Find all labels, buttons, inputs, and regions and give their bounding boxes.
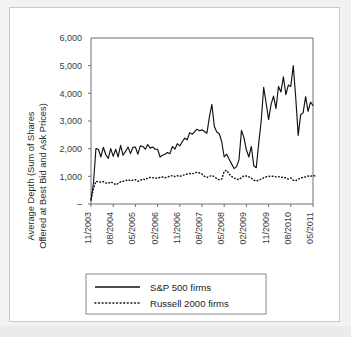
x-tick-label: 11/2003	[83, 212, 93, 244]
y-axis-title: Average Depth (Sum of Shares Offered at …	[26, 103, 48, 249]
y-tick-label: 1,000	[59, 172, 82, 182]
legend-label-russell2000: Russell 2000 firms	[150, 298, 229, 309]
x-tick-label: 08/2007	[194, 212, 204, 245]
x-tick-label: 02/2006	[150, 212, 160, 245]
series-line-sp500	[91, 66, 313, 201]
x-tick-label: 08/2010	[283, 212, 293, 245]
x-tick-label: 08/2004	[105, 212, 115, 245]
x-tick-labels: 11/200308/200405/200502/200611/200608/20…	[83, 212, 315, 245]
figure-frame: Average Depth (Sum of Shares Offered at …	[9, 7, 340, 322]
x-tick-label: 05/2008	[216, 212, 226, 245]
y-tick-label: 3,000	[59, 116, 82, 126]
x-tick-label: 05/2005	[127, 212, 137, 245]
x-tick-label: 05/2011	[305, 212, 315, 244]
y-tick-label: –	[77, 199, 82, 209]
line-chart: Average Depth (Sum of Shares Offered at …	[10, 8, 341, 323]
y-axis-title-line2: Offered at Best Bid and Ask Prices)	[38, 103, 48, 249]
page-bottom-band	[0, 326, 351, 337]
y-tick-labels: 6,0005,0004,0003,0002,0001,000–	[59, 33, 82, 209]
y-tick-label: 6,000	[59, 33, 82, 43]
legend-label-sp500: S&P 500 firms	[150, 282, 211, 293]
x-tick-label: 11/2009	[261, 212, 271, 244]
figure-root: Average Depth (Sum of Shares Offered at …	[0, 0, 351, 337]
chart-area: Average Depth (Sum of Shares Offered at …	[10, 8, 341, 323]
x-tick-label: 02/2009	[238, 212, 248, 245]
x-tick-label: 11/2006	[172, 212, 182, 244]
y-tick-label: 5,000	[59, 61, 82, 71]
y-tick-label: 4,000	[59, 89, 82, 99]
y-tick-label: 2,000	[59, 144, 82, 154]
series-line-russell2000	[91, 170, 315, 199]
legend: S&P 500 firms Russell 2000 firms	[86, 274, 266, 314]
y-axis-title-line1: Average Depth (Sum of Shares	[26, 111, 36, 240]
